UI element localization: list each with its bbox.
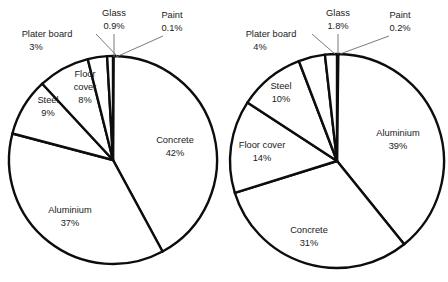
slice-label-steel: Steel bbox=[270, 81, 291, 91]
slice-value-steel: 10% bbox=[272, 94, 291, 104]
leader-line-plater-board bbox=[96, 34, 118, 57]
charts-svg: Paint0.1%Concrete42%Aluminium37%Steel9%F… bbox=[0, 0, 448, 282]
slice-label-glass: Glass bbox=[102, 8, 126, 18]
slice-value-floor-cover: 14% bbox=[253, 153, 272, 163]
slice-label-glass: Glass bbox=[326, 8, 350, 18]
pie-chart-figure: Paint0.1%Concrete42%Aluminium37%Steel9%F… bbox=[0, 0, 448, 282]
slice-label-paint: Paint bbox=[389, 10, 411, 20]
slice-value-concrete: 31% bbox=[300, 238, 319, 248]
slice-label2-floor-cover: cover bbox=[74, 82, 97, 92]
leader-line-paint bbox=[116, 36, 163, 57]
slice-value-glass: 0.9% bbox=[103, 21, 124, 31]
slice-label-concrete: Concrete bbox=[290, 225, 328, 235]
slice-value-paint: 0.1% bbox=[161, 23, 182, 33]
slice-value-plater-board: 4% bbox=[253, 42, 266, 52]
slice-label-aluminium: Aluminium bbox=[376, 128, 420, 138]
slice-value-concrete: 42% bbox=[166, 148, 185, 158]
slice-label-floor-cover: Floor bbox=[74, 69, 95, 79]
slice-value-paint: 0.2% bbox=[389, 23, 410, 33]
left-pie-chart: Paint0.1%Concrete42%Aluminium37%Steel9%F… bbox=[9, 8, 217, 264]
slice-label-floor-cover: Floor cover bbox=[239, 140, 286, 150]
slice-label-paint: Paint bbox=[161, 10, 183, 20]
slice-value-steel: 9% bbox=[41, 108, 54, 118]
slice-value-plater-board: 3% bbox=[29, 42, 42, 52]
slice-label-steel: Steel bbox=[37, 95, 58, 105]
leader-line-paint bbox=[340, 36, 389, 54]
slice-value-glass: 1.8% bbox=[327, 21, 348, 31]
slice-label-concrete: Concrete bbox=[156, 135, 194, 145]
slice-label-plater-board: Plater board bbox=[22, 29, 73, 39]
slice-value-aluminium: 39% bbox=[389, 141, 408, 151]
right-pie-chart: Paint0.2%Aluminium39%Concrete31%Floor co… bbox=[230, 8, 444, 268]
slice-label-aluminium: Aluminium bbox=[48, 205, 92, 215]
slice-value-floor-cover: 8% bbox=[78, 95, 91, 105]
slice-value-aluminium: 37% bbox=[61, 218, 80, 228]
slice-label-plater-board: Plater board bbox=[246, 29, 297, 39]
leader-line-plater-board bbox=[312, 34, 335, 54]
